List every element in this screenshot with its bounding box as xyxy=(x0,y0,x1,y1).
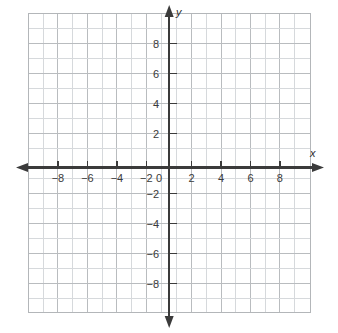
y-axis-arrow-top xyxy=(165,5,174,17)
coordinate-plane-svg: −8 −6 −4 −2 2 4 6 8 8 6 4 2 −2 −4 −6 −8 … xyxy=(0,0,338,333)
x-tick-label: −6 xyxy=(81,172,94,184)
x-axis-arrow-left xyxy=(16,163,28,172)
x-tick-label: 2 xyxy=(188,172,194,184)
x-tick-label: −8 xyxy=(52,172,65,184)
x-tick-label: −2 xyxy=(140,172,153,184)
y-tick-label: 6 xyxy=(153,68,159,80)
y-axis-arrow-bottom xyxy=(165,316,174,328)
coordinate-plane-figure: −8 −6 −4 −2 2 4 6 8 8 6 4 2 −2 −4 −6 −8 … xyxy=(0,0,338,333)
y-tick-label: 4 xyxy=(153,98,159,110)
y-tick-label: 2 xyxy=(153,128,159,140)
x-axis-name: x xyxy=(309,147,316,159)
x-tick-label: 8 xyxy=(277,172,283,184)
x-axis-arrow-right xyxy=(312,163,324,172)
y-tick-label: −6 xyxy=(146,248,159,260)
origin-label: 0 xyxy=(156,172,162,184)
y-tick-label: 8 xyxy=(153,38,159,50)
x-tick-label: 4 xyxy=(218,172,224,184)
y-tick-label: −8 xyxy=(146,278,159,290)
y-tick-label: −2 xyxy=(146,188,159,200)
x-tick-label: 6 xyxy=(247,172,253,184)
x-tick-label: −4 xyxy=(111,172,124,184)
y-tick-label: −4 xyxy=(146,218,159,230)
